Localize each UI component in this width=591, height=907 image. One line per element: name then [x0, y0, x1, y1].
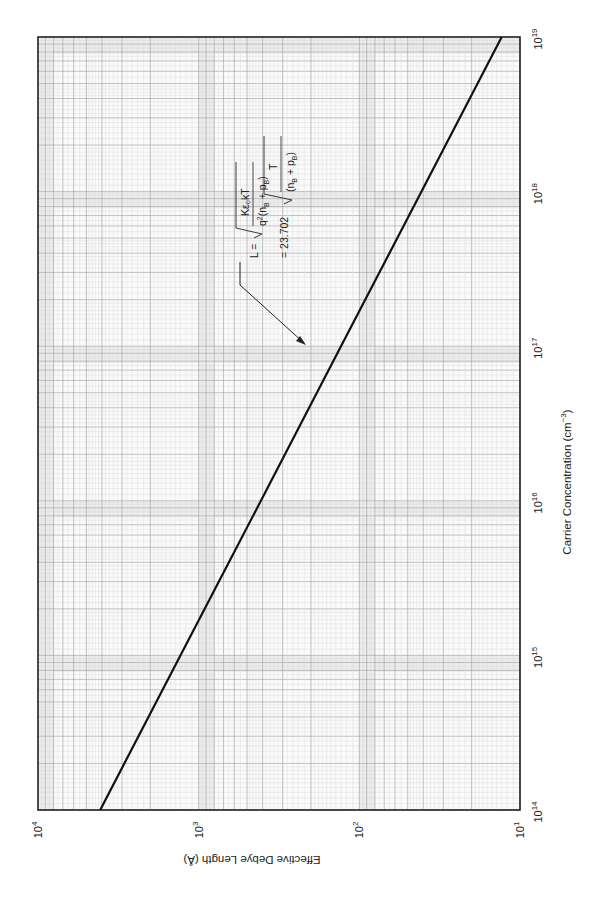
y-axis-title: Effective Debye Length (Å)	[183, 854, 320, 866]
x-axis-title: Carrier Concentration (cm−3)	[559, 409, 573, 554]
y-tick-label: 104	[30, 821, 44, 838]
y-tick-label: 102	[351, 821, 365, 838]
y-tick-label: 103	[191, 821, 205, 838]
x-tick-label: 1017	[530, 337, 544, 359]
equation-simplified-lhs: = 23.702	[278, 217, 290, 258]
x-tick-label: 1016	[530, 492, 544, 514]
plot-background	[38, 37, 520, 810]
x-axis-ticks: 101410151016101710181019	[530, 28, 544, 823]
equation-numerator-2: T	[267, 163, 279, 170]
debye-length-chart: L = Kε₀kT q2(nB + pB) = 23.702 T (nB + p…	[0, 0, 591, 907]
equation-lhs: L =	[248, 244, 260, 259]
x-tick-label: 1019	[530, 28, 544, 50]
y-axis-ticks: 101102103104	[30, 821, 526, 838]
x-tick-label: 1015	[530, 646, 544, 668]
x-tick-label: 1018	[530, 182, 544, 204]
y-tick-label: 101	[512, 821, 526, 838]
equation-numerator-1: Kε₀kT	[239, 188, 251, 216]
x-tick-label: 1014	[530, 801, 544, 823]
